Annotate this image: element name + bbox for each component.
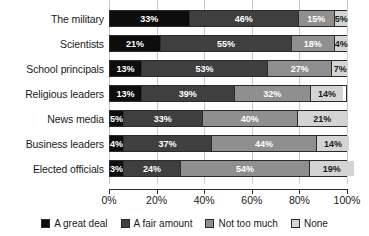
bar-segment: 54%	[180, 161, 309, 176]
stacked-bar: 13%39%32%14%	[109, 85, 347, 102]
bar-segment: 33%	[110, 11, 189, 26]
bar-segment: 21%	[110, 36, 160, 51]
bar-segment-value: 7%	[334, 64, 347, 74]
bar-segment-value: 53%	[195, 64, 213, 74]
bar-segment: 18%	[291, 36, 334, 51]
chart-row: Religious leaders13%39%32%14%	[0, 81, 369, 106]
bar-segment-value: 54%	[236, 164, 254, 174]
axis-tick-label: 40%	[194, 194, 215, 206]
category-label: Religious leaders	[0, 88, 109, 100]
chart-row: School principals13%53%27%7%	[0, 56, 369, 81]
bar-segment-value: 5%	[335, 14, 348, 24]
bar-segment-value: 4%	[110, 139, 123, 149]
bar-segment: 27%	[267, 61, 331, 76]
bar-segment-value: 21%	[126, 39, 144, 49]
bar-segment: 5%	[334, 11, 348, 26]
bar-segment: 4%	[110, 136, 123, 151]
bar-segment-value: 14%	[318, 89, 336, 99]
stacked-bar: 3%24%54%19%	[109, 160, 347, 177]
category-label: School principals	[0, 63, 109, 75]
bar-segment: 55%	[160, 36, 291, 51]
bar-segment-value: 15%	[307, 14, 325, 24]
chart-row: News media5%33%40%21%	[0, 106, 369, 131]
bar-segment-value: 37%	[159, 139, 177, 149]
bar-segment-value: 39%	[179, 89, 197, 99]
chart-row: Elected officials3%24%54%19%	[0, 156, 369, 181]
chart-legend: A great dealA fair amountNot too muchNon…	[0, 214, 369, 232]
bar-segment: 3%	[110, 161, 123, 176]
bar-segment: 19%	[309, 161, 354, 176]
category-label: Elected officials	[0, 163, 109, 175]
category-label: The military	[0, 13, 109, 25]
bar-segment: 4%	[334, 36, 348, 51]
bar-segment: 15%	[298, 11, 334, 26]
bar-segment: 37%	[123, 136, 211, 151]
bar-segment-value: 13%	[116, 64, 134, 74]
bar-segment-value: 33%	[140, 14, 158, 24]
legend-swatch-icon	[121, 219, 130, 228]
bar-segment: 7%	[331, 61, 348, 76]
category-label: News media	[0, 113, 109, 125]
legend-item[interactable]: None	[291, 218, 328, 229]
legend-item[interactable]: A fair amount	[121, 218, 193, 229]
bar-segment: 32%	[234, 86, 310, 101]
legend-label: Not too much	[218, 218, 277, 229]
axis-tick-label: 0%	[101, 194, 116, 206]
bar-segment-value: 3%	[110, 164, 123, 174]
bar-segment: 33%	[123, 111, 202, 126]
axis-tick-label: 100%	[334, 194, 361, 206]
bar-segment: 44%	[211, 136, 316, 151]
bar-segment: 14%	[310, 86, 343, 101]
bar-segment-value: 27%	[291, 64, 309, 74]
stacked-bar: 13%53%27%7%	[109, 60, 347, 77]
bar-segment-value: 24%	[143, 164, 161, 174]
bar-segment: 13%	[110, 61, 141, 76]
legend-swatch-icon	[41, 219, 50, 228]
bar-segment-value: 21%	[313, 114, 331, 124]
bar-segment-value: 32%	[263, 89, 281, 99]
legend-item[interactable]: Not too much	[205, 218, 277, 229]
bar-segment: 21%	[297, 111, 347, 126]
bar-segment-value: 33%	[154, 114, 172, 124]
axis-tick-label: 80%	[289, 194, 310, 206]
bar-segment-value: 18%	[304, 39, 322, 49]
legend-swatch-icon	[291, 219, 300, 228]
bar-segment: 53%	[141, 61, 267, 76]
stacked-bar: 4%37%44%14%	[109, 135, 347, 152]
axis-tick-label: 60%	[241, 194, 262, 206]
bar-segment-value: 19%	[323, 164, 341, 174]
bar-segment-value: 5%	[110, 114, 123, 124]
bar-segment: 14%	[316, 136, 349, 151]
category-label: Scientists	[0, 38, 109, 50]
bar-segment-value: 40%	[241, 114, 259, 124]
chart-row: The military33%46%15%5%	[0, 6, 369, 31]
stacked-bar: 33%46%15%5%	[109, 10, 347, 27]
bar-segment-value: 4%	[335, 39, 348, 49]
bar-segment: 5%	[110, 111, 123, 126]
bar-segment-value: 55%	[217, 39, 235, 49]
axis-tick-label: 20%	[146, 194, 167, 206]
chart-row: Business leaders4%37%44%14%	[0, 131, 369, 156]
stacked-bar: 5%33%40%21%	[109, 110, 347, 127]
bar-segment: 40%	[202, 111, 297, 126]
chart-plot-area: The military33%46%15%5%Scientists21%55%1…	[0, 6, 369, 190]
bar-segment: 46%	[189, 11, 298, 26]
category-label: Business leaders	[0, 138, 109, 150]
bar-segment-value: 44%	[255, 139, 273, 149]
legend-item[interactable]: A great deal	[41, 218, 107, 229]
stacked-bar: 21%55%18%4%	[109, 35, 347, 52]
bar-segment-value: 14%	[324, 139, 342, 149]
legend-swatch-icon	[205, 219, 214, 228]
bar-segment: 13%	[110, 86, 141, 101]
chart-row: Scientists21%55%18%4%	[0, 31, 369, 56]
x-axis-tick-labels: 0%20%40%60%80%100%	[0, 194, 369, 208]
legend-label: None	[304, 218, 328, 229]
bar-segment: 39%	[141, 86, 234, 101]
bar-segment-value: 46%	[235, 14, 253, 24]
legend-label: A fair amount	[134, 218, 193, 229]
stacked-bar-chart: The military33%46%15%5%Scientists21%55%1…	[0, 0, 369, 236]
legend-label: A great deal	[54, 218, 107, 229]
bar-segment-value: 13%	[116, 89, 134, 99]
bar-segment: 24%	[123, 161, 180, 176]
